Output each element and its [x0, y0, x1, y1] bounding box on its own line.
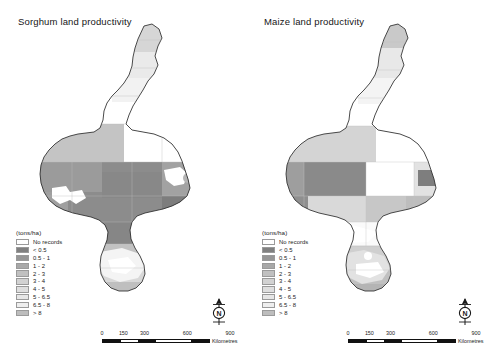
legend-swatch [262, 278, 275, 284]
legend-item: No records [16, 239, 108, 246]
legend-swatch [16, 286, 29, 292]
legend-label: No records [279, 239, 308, 245]
scalebar-tick: 600 [183, 330, 192, 336]
scalebar-tick: 0 [101, 330, 104, 336]
legend-item: 0.5 - 1 [16, 254, 108, 261]
legend-label: 1 - 2 [279, 263, 291, 269]
legend-item: 6.5 - 8 [262, 302, 354, 309]
legend-swatch [262, 239, 275, 245]
scalebar-tick: 150 [365, 330, 374, 336]
scalebar-segment [367, 340, 385, 342]
scalebar-segment [384, 340, 402, 342]
legend-label: > 8 [279, 310, 288, 316]
scalebar-segment [191, 340, 209, 342]
scalebar-segment [402, 340, 437, 342]
scalebar-unit: Kilometres [212, 338, 237, 344]
scalebar-tick: 300 [140, 330, 149, 336]
legend-label: > 8 [33, 310, 42, 316]
scalebar-segment [156, 340, 191, 342]
legend-item: > 8 [262, 309, 354, 316]
scalebar-segment [349, 340, 367, 342]
legend-label: 2 - 3 [279, 271, 291, 277]
legend-swatch [262, 302, 275, 308]
scalebar-tick: 600 [429, 330, 438, 336]
legend-item: 3 - 4 [16, 278, 108, 285]
legend-label: 4 - 5 [279, 286, 291, 292]
legend-swatch [16, 302, 29, 308]
legend-swatch [262, 263, 275, 269]
legend-swatch [262, 310, 275, 316]
legend-label: No records [33, 239, 62, 245]
legend-title: (tons/ha) [262, 229, 354, 236]
compass-icon: N [206, 297, 232, 327]
legend-label: 4 - 5 [33, 286, 45, 292]
north-arrow-maize: N [452, 297, 478, 327]
legend-swatch [16, 263, 29, 269]
legend-item: 2 - 3 [262, 270, 354, 277]
legend-label: 0.5 - 1 [279, 255, 296, 261]
scalebar-tick: 900 [226, 330, 235, 336]
scalebar-segment [121, 340, 139, 342]
scalebar-tick: 900 [472, 330, 481, 336]
scalebar-tick: 150 [119, 330, 128, 336]
scalebar-bar [102, 339, 210, 343]
scalebar-segment [437, 340, 455, 342]
legend-label: 3 - 4 [279, 278, 291, 284]
legend-label: 3 - 4 [33, 278, 45, 284]
legend-swatch [262, 247, 275, 253]
legend-swatch [16, 255, 29, 261]
legend-label: < 0.5 [33, 247, 47, 253]
legend-label: < 0.5 [279, 247, 293, 253]
legend-item: 4 - 5 [16, 286, 108, 293]
north-label: N [462, 310, 467, 317]
legend-sorghum: (tons/ha) No records < 0.5 0.5 - 1 1 - 2… [16, 229, 108, 317]
legend-item: 2 - 3 [16, 270, 108, 277]
map-panel-maize: Maize land productivity [246, 0, 492, 362]
legend-item: No records [262, 239, 354, 246]
scalebar-segment [138, 340, 156, 342]
legend-swatch [16, 278, 29, 284]
legend-swatch [262, 270, 275, 276]
legend-swatch [16, 294, 29, 300]
legend-swatch [16, 270, 29, 276]
scalebar-segment [103, 340, 121, 342]
legend-item: 0.5 - 1 [262, 254, 354, 261]
scalebar-sorghum: 0 150 300 600 900 Kilometres [102, 330, 230, 350]
legend-label: 1 - 2 [33, 263, 45, 269]
legend-label: 0.5 - 1 [33, 255, 50, 261]
legend-item: < 0.5 [16, 246, 108, 253]
scalebar-ticks: 0 150 300 600 900 [102, 330, 230, 338]
legend-item: 3 - 4 [262, 278, 354, 285]
figure-root: Sorghum land productivity [0, 0, 492, 362]
compass-icon: N [452, 297, 478, 327]
legend-label: 6.5 - 8 [279, 302, 296, 308]
legend-item: 4 - 5 [262, 286, 354, 293]
legend-item: < 0.5 [262, 246, 354, 253]
legend-swatch [16, 247, 29, 253]
scalebar-ticks: 0 150 300 600 900 [348, 330, 476, 338]
legend-maize: (tons/ha) No records < 0.5 0.5 - 1 1 - 2… [262, 229, 354, 317]
legend-item: 5 - 6.5 [16, 294, 108, 301]
legend-swatch [262, 294, 275, 300]
legend-label: 5 - 6.5 [33, 294, 50, 300]
legend-label: 5 - 6.5 [279, 294, 296, 300]
legend-item: 6.5 - 8 [16, 302, 108, 309]
scalebar-bar [348, 339, 456, 343]
legend-item: 1 - 2 [16, 262, 108, 269]
legend-item: 1 - 2 [262, 262, 354, 269]
legend-swatch [16, 239, 29, 245]
legend-title: (tons/ha) [16, 229, 108, 236]
scalebar-maize: 0 150 300 600 900 Kilometres [348, 330, 476, 350]
map-panel-sorghum: Sorghum land productivity [0, 0, 246, 362]
north-arrow-sorghum: N [206, 297, 232, 327]
scalebar-tick: 0 [347, 330, 350, 336]
legend-swatch [16, 310, 29, 316]
legend-item: 5 - 6.5 [262, 294, 354, 301]
legend-label: 6.5 - 8 [33, 302, 50, 308]
scalebar-unit: Kilometres [458, 338, 483, 344]
scalebar-tick: 300 [386, 330, 395, 336]
north-label: N [216, 310, 221, 317]
legend-item: > 8 [16, 309, 108, 316]
legend-label: 2 - 3 [33, 271, 45, 277]
legend-swatch [262, 255, 275, 261]
